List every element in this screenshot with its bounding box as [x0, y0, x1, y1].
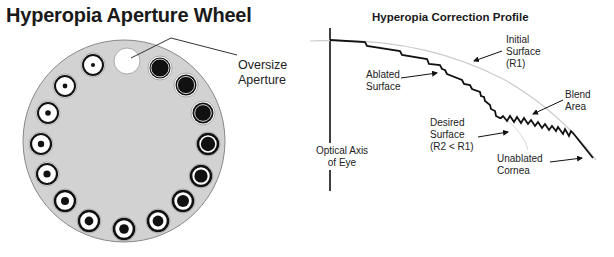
unablated-cornea-label: Unablated Cornea: [497, 153, 543, 177]
initial-surface-label: Initial Surface (R1): [506, 34, 540, 70]
desired-surface-label: Desired Surface (R2 < R1): [430, 117, 474, 153]
optical-axis-label: Optical Axis of Eye: [306, 145, 378, 169]
oversize-aperture: [114, 48, 140, 74]
initial-surface-arrow: [474, 51, 502, 61]
desired-surface-arrow: [478, 132, 508, 137]
aperture-wheel: [23, 38, 237, 242]
desired-surface-curve: [505, 118, 528, 150]
unablated-cornea-arrow: [550, 158, 582, 162]
ablated-surface-arrow: [401, 73, 437, 78]
blend-area-label: Blend Area: [565, 89, 591, 113]
ablated-surface-label: Ablated Surface: [366, 69, 400, 93]
oversize-aperture-label: Oversize Aperture: [238, 58, 287, 88]
